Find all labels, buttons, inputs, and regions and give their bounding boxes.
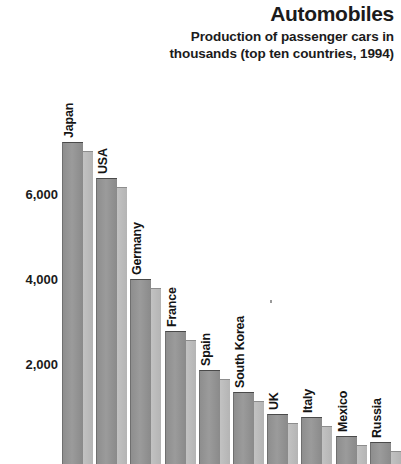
bar-side-face [186, 340, 196, 464]
bar-side-face [322, 426, 332, 464]
bar-label: Germany [130, 222, 144, 275]
bar-group: South Korea [233, 2, 264, 464]
bar-front-face [62, 142, 83, 464]
bar-group: Spain [199, 2, 230, 464]
bar-front-face [301, 417, 322, 464]
bar-side-face [288, 423, 298, 464]
bar-side-face [357, 445, 367, 464]
bar-label: UK [267, 393, 281, 411]
bar-side-face [117, 187, 127, 464]
bar-label: France [165, 287, 179, 327]
bar-group: Italy [301, 2, 332, 464]
bar-group: USA [96, 2, 127, 464]
bar-front-face [370, 442, 391, 464]
bar-label: USA [96, 148, 110, 174]
plot-area: JapanUSAGermanyFranceSpainSouth KoreaUKI… [60, 0, 401, 464]
y-axis-tick-4000: 4,000 [0, 273, 58, 286]
y-axis-tick-2000: 2,000 [0, 358, 58, 371]
bar-front-face [267, 414, 288, 464]
bar-label: Mexico [336, 391, 350, 432]
bar-group: Germany [130, 2, 161, 464]
bar-side-face [391, 451, 401, 464]
y-axis-tick-6000: 6,000 [0, 188, 58, 201]
bar-front-face [336, 436, 357, 464]
bar-label: Japan [62, 103, 76, 138]
bar-group: Mexico [336, 2, 367, 464]
bar-group: Japan [62, 2, 93, 464]
bar-front-face [199, 370, 220, 464]
bar-front-face [130, 279, 151, 464]
automobiles-bar-chart: Automobiles Production of passenger cars… [0, 0, 401, 464]
bar-group: Russia [370, 2, 401, 464]
bar-side-face [220, 379, 230, 464]
bar-label: Russia [370, 398, 384, 438]
bar-label: South Korea [233, 316, 247, 388]
bar-group: France [165, 2, 196, 464]
bar-side-face [83, 151, 93, 464]
bar-group: UK [267, 2, 298, 464]
y-axis: 2,0004,0006,000 [0, 0, 58, 464]
bar-front-face [96, 178, 117, 464]
bar-front-face [233, 392, 254, 464]
bar-side-face [151, 288, 161, 464]
bar-label: Spain [199, 333, 213, 366]
bar-front-face [165, 331, 186, 464]
bar-side-face [254, 401, 264, 464]
bar-label: Italy [301, 389, 315, 413]
